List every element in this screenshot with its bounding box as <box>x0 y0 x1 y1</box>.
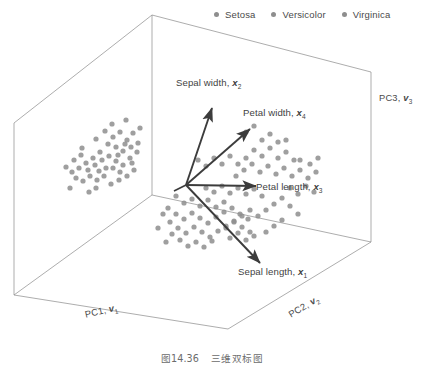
scatter-point <box>221 209 226 214</box>
scatter-point <box>120 162 125 167</box>
vector-label-petal-length: Petal length, x3 <box>256 181 323 194</box>
figure-caption-number: 图14.36 <box>161 353 199 364</box>
legend-item-setosa[interactable]: Setosa <box>214 9 255 20</box>
scatter-point <box>120 148 125 153</box>
scatter-point <box>105 141 110 146</box>
scatter-point <box>247 229 252 234</box>
scatter-point <box>137 125 142 130</box>
scatter-point <box>195 157 200 162</box>
figure-container: Setosa Versicolor Virginica Sepal width,… <box>0 0 424 371</box>
scatter-point <box>205 220 210 225</box>
scatter-point <box>109 121 114 126</box>
vector-label-petal-length-sub: 3 <box>319 187 323 194</box>
scatter-point <box>102 128 107 133</box>
scatter-point <box>93 185 98 190</box>
scatter-point <box>90 155 95 160</box>
scatter-point <box>295 211 300 216</box>
scatter-point <box>185 243 190 248</box>
scatter-point <box>245 216 250 221</box>
scatter-point <box>231 219 236 224</box>
scatter-point <box>305 175 310 180</box>
scatter-point <box>265 163 270 168</box>
scatter-point <box>239 213 244 218</box>
scatter-point <box>131 167 136 172</box>
vector-label-petal-width-sub: 4 <box>302 113 306 120</box>
scatter-point <box>86 189 91 194</box>
frame-edge-top-left <box>14 15 152 123</box>
scatter-point <box>263 207 268 212</box>
scatter-point <box>97 149 102 154</box>
scatter-point <box>103 165 108 170</box>
scatter-point <box>106 153 111 158</box>
scatter-point <box>241 167 246 172</box>
scatter-point <box>189 196 194 201</box>
scatter-point <box>315 155 320 160</box>
axis-label-pc3-sub: 3 <box>409 98 413 105</box>
vector-label-sepal-width-text: Sepal width, <box>176 77 229 88</box>
scatter-point <box>297 167 302 172</box>
vector-arrow-sepal-length <box>186 185 260 263</box>
biplot-svg <box>0 0 424 371</box>
scatter-point <box>279 195 284 200</box>
legend-label-versicolor: Versicolor <box>282 9 325 20</box>
scatter-point <box>251 123 256 128</box>
legend-dot-versicolor <box>271 12 276 17</box>
scatter-point <box>289 173 294 178</box>
scatter-point <box>92 162 97 167</box>
legend-item-versicolor[interactable]: Versicolor <box>271 9 325 20</box>
scatter-point <box>122 141 127 146</box>
scatter-point <box>219 161 224 166</box>
scatter-point <box>69 169 74 174</box>
frame-edge-top-right <box>152 15 371 72</box>
scatter-point <box>110 134 115 139</box>
scatter-point <box>211 189 216 194</box>
scatter-point <box>63 164 68 169</box>
scatter-point <box>291 157 296 162</box>
legend-label-setosa: Setosa <box>225 9 255 20</box>
scatter-point <box>123 117 128 122</box>
scatter-point <box>108 181 113 186</box>
scatter-point <box>94 177 99 182</box>
legend-item-virginica[interactable]: Virginica <box>342 9 391 20</box>
scatter-point <box>227 153 232 158</box>
scatter-point <box>93 136 98 141</box>
scatter-point <box>197 203 202 208</box>
scatter-point <box>85 167 90 172</box>
legend-label-virginica: Virginica <box>353 9 391 20</box>
scatter-point <box>163 239 168 244</box>
vector-arrow-petal-length <box>186 185 256 186</box>
figure-caption-title: 三维双标图 <box>211 353 263 364</box>
scatter-point <box>167 219 172 224</box>
scatter-point <box>189 210 194 215</box>
legend-dot-setosa <box>214 12 219 17</box>
scatter-point <box>183 230 188 235</box>
scatter-point <box>235 161 240 166</box>
scatter-point <box>101 173 106 178</box>
scatter-point <box>221 199 226 204</box>
scatter-point <box>173 193 178 198</box>
scatter-point <box>227 190 232 195</box>
vector-label-petal-width-text: Petal width, <box>243 107 294 118</box>
scatter-point <box>209 238 214 243</box>
scatter-point <box>243 237 248 242</box>
vector-label-sepal-length: Sepal length, x1 <box>238 266 307 279</box>
scatter-point <box>134 149 139 154</box>
scatter-point <box>229 205 234 210</box>
scatter-point <box>233 173 238 178</box>
scatter-point <box>116 177 121 182</box>
scatter-point <box>247 207 252 212</box>
scatter-point <box>283 149 288 154</box>
scatter-point <box>313 169 318 174</box>
vector-label-sepal-length-text: Sepal length, <box>238 266 295 277</box>
scatter-point <box>287 203 292 208</box>
scatter-point <box>205 197 210 202</box>
scatter-point <box>124 173 129 178</box>
scatter-point <box>79 145 84 150</box>
scatter-point <box>113 158 118 163</box>
scatter-point <box>267 131 272 136</box>
scatter-point <box>255 213 260 218</box>
scatter-point <box>279 217 284 222</box>
scatter-point <box>297 157 302 162</box>
scatter-point <box>251 147 256 152</box>
scatter-point <box>283 137 288 142</box>
